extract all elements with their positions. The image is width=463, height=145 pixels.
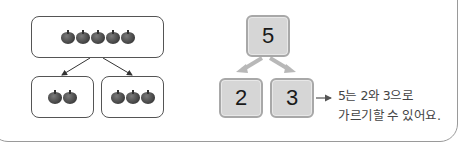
whole-number: 5 [262, 23, 274, 49]
number-bond-part-right: 3 [270, 78, 314, 118]
arrow-to-right-part [103, 58, 132, 75]
apple-icon [106, 30, 120, 44]
apple-icon [48, 90, 62, 104]
part-apples-box-left [31, 76, 94, 118]
apple-icon [76, 30, 90, 44]
number-bond-whole: 5 [246, 15, 290, 57]
apple-icon [126, 90, 140, 104]
caption-line-2: 가르기할 수 있어요. [338, 106, 440, 126]
explanation-caption: 5는 2와 3으로 가르기할 수 있어요. [338, 86, 440, 126]
apple-icon [121, 30, 135, 44]
apple-icon [91, 30, 105, 44]
apple-icon [61, 30, 75, 44]
apple-icon [111, 90, 125, 104]
part-number-right: 3 [286, 85, 298, 111]
part-apples-box-right [101, 76, 164, 118]
whole-apples-box [31, 16, 164, 58]
number-bond-part-left: 2 [219, 78, 263, 118]
apple-icon [141, 90, 155, 104]
caption-line-1: 5는 2와 3으로 [338, 86, 440, 106]
part-number-left: 2 [235, 85, 247, 111]
apple-icon [63, 90, 77, 104]
arrow-to-left-part [62, 58, 90, 75]
